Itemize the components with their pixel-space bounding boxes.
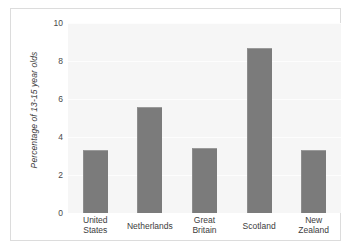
y-axis-tick-label: 6	[58, 94, 63, 104]
y-axis-tick-label: 4	[58, 132, 63, 142]
bar-slot	[232, 23, 287, 213]
y-axis-title: Percentage of 13-15 year olds	[29, 25, 39, 195]
x-axis-tick-label: Netherlands	[127, 221, 173, 231]
x-axis-tick-label: Great Britain	[192, 215, 216, 235]
x-axis-tick-label: New Zealand	[298, 215, 329, 235]
bar[interactable]	[247, 48, 272, 213]
x-tick-slot: Great Britain	[177, 215, 232, 237]
y-axis-tick-label: 2	[58, 170, 63, 180]
chart-figure: Percentage of 13-15 year olds 0246810 Un…	[0, 0, 353, 251]
x-tick-slot: Netherlands	[123, 215, 178, 237]
chart-frame: Percentage of 13-15 year olds 0246810 Un…	[10, 8, 341, 241]
bar-slot	[177, 23, 232, 213]
page-edge-artifact	[0, 244, 353, 251]
x-axis-tick-label: Scotland	[243, 221, 276, 231]
y-axis-tick-label: 0	[58, 208, 63, 218]
y-axis-tick-label: 10	[54, 18, 63, 28]
bar-slot	[286, 23, 341, 213]
bar-slot	[123, 23, 178, 213]
x-tick-slot: United States	[68, 215, 123, 237]
bar[interactable]	[137, 107, 162, 213]
x-tick-slot: New Zealand	[286, 215, 341, 237]
bar-series	[68, 23, 341, 213]
x-tick-slot: Scotland	[232, 215, 287, 237]
bar[interactable]	[83, 150, 108, 213]
x-axis-tick-labels: United StatesNetherlandsGreat BritainSco…	[68, 215, 341, 237]
y-axis-tick-label: 8	[58, 56, 63, 66]
x-axis-tick-label: United States	[83, 215, 108, 235]
plot-area: 0246810	[68, 23, 341, 213]
bar[interactable]	[301, 150, 326, 213]
bar[interactable]	[192, 148, 217, 213]
bar-slot	[68, 23, 123, 213]
